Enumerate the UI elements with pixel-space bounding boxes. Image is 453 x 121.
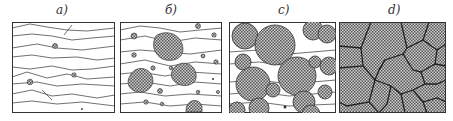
- panel-c-recrystallization: [229, 22, 336, 113]
- panel-a-deformed-structure: [12, 22, 115, 113]
- panel-label-a: a): [56, 3, 68, 17]
- panel-label-d: d): [388, 3, 400, 17]
- panel-b-nuclei-growth: [120, 22, 222, 113]
- panel-label-c: c): [278, 3, 289, 17]
- panel-d-equiaxed-grains: [339, 22, 446, 113]
- panel-label-b: б): [165, 3, 177, 17]
